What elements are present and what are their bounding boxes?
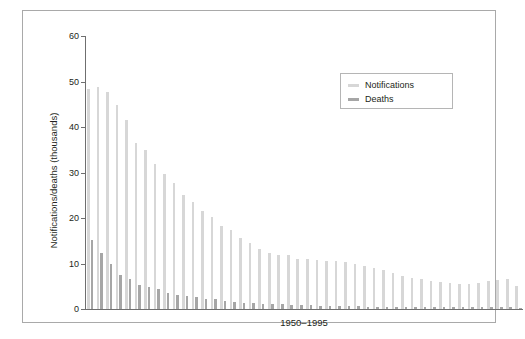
bar-notifications bbox=[163, 174, 166, 309]
bar-group bbox=[468, 36, 478, 309]
bar-deaths bbox=[148, 287, 151, 309]
bar-deaths bbox=[281, 304, 284, 309]
bar-group bbox=[239, 36, 249, 309]
y-axis-tick-label: 40 bbox=[69, 123, 79, 132]
bar-notifications bbox=[335, 261, 338, 309]
bar-notifications bbox=[287, 255, 290, 309]
bar-notifications bbox=[306, 259, 309, 309]
bar-notifications bbox=[468, 284, 471, 309]
bar-deaths bbox=[424, 307, 427, 309]
bar-group bbox=[211, 36, 221, 309]
bar-group bbox=[496, 36, 506, 309]
y-axis-tick-label: 10 bbox=[69, 260, 79, 269]
bar-notifications bbox=[296, 259, 299, 310]
bar-group bbox=[116, 36, 126, 309]
bar-notifications bbox=[125, 120, 128, 309]
bar-deaths bbox=[224, 301, 227, 309]
bar-group bbox=[515, 36, 525, 309]
bar-group bbox=[458, 36, 468, 309]
bar-notifications bbox=[430, 281, 433, 309]
bar-deaths bbox=[357, 306, 360, 309]
bar-deaths bbox=[376, 307, 379, 309]
bar-deaths bbox=[214, 299, 217, 309]
bar-group bbox=[487, 36, 497, 309]
bar-deaths bbox=[110, 264, 113, 310]
bar-notifications bbox=[154, 164, 157, 309]
y-axis-tick bbox=[81, 264, 85, 265]
bar-group bbox=[144, 36, 154, 309]
bar-group bbox=[287, 36, 297, 309]
legend-item: Deaths bbox=[348, 93, 394, 106]
bar-group bbox=[173, 36, 183, 309]
bar-deaths bbox=[462, 307, 465, 309]
bar-notifications bbox=[249, 243, 252, 309]
bar-notifications bbox=[363, 266, 366, 309]
bar-deaths bbox=[176, 295, 179, 309]
bar-group bbox=[258, 36, 268, 309]
bar-group bbox=[125, 36, 135, 309]
bar-notifications bbox=[392, 273, 395, 309]
bar-notifications bbox=[239, 238, 242, 309]
plot-area bbox=[85, 36, 523, 309]
bar-group bbox=[201, 36, 211, 309]
bar-notifications bbox=[439, 282, 442, 309]
bar-notifications bbox=[116, 105, 119, 309]
bar-deaths bbox=[129, 279, 132, 309]
bar-deaths bbox=[300, 305, 303, 309]
bar-deaths bbox=[329, 306, 332, 309]
bar-notifications bbox=[87, 89, 90, 309]
bar-deaths bbox=[262, 304, 265, 309]
bar-notifications bbox=[135, 143, 138, 309]
bar-group bbox=[192, 36, 202, 309]
y-axis-tick-label: 30 bbox=[69, 169, 79, 178]
y-axis-tick-labels: 0102030405060 bbox=[23, 36, 79, 309]
bar-notifications bbox=[97, 87, 100, 309]
bar-deaths bbox=[509, 307, 512, 309]
bar-deaths bbox=[186, 296, 189, 309]
y-axis-tick-label: 60 bbox=[69, 32, 79, 41]
bar-deaths bbox=[395, 307, 398, 309]
bar-notifications bbox=[477, 283, 480, 309]
bar-notifications bbox=[373, 268, 376, 309]
bar-group bbox=[477, 36, 487, 309]
legend-swatch-icon bbox=[348, 98, 359, 101]
chart-legend: NotificationsDeaths bbox=[340, 73, 453, 109]
bar-group bbox=[135, 36, 145, 309]
bar-deaths bbox=[310, 305, 313, 309]
bar-deaths bbox=[452, 307, 455, 309]
y-axis-tick bbox=[81, 173, 85, 174]
bar-notifications bbox=[144, 150, 147, 309]
bar-notifications bbox=[220, 226, 223, 309]
bar-deaths bbox=[519, 308, 522, 309]
y-axis-tick-label: 0 bbox=[74, 305, 79, 314]
bar-deaths bbox=[500, 307, 503, 309]
bar-notifications bbox=[211, 217, 214, 309]
bar-group bbox=[220, 36, 230, 309]
legend-swatch-icon bbox=[348, 84, 359, 87]
bar-group bbox=[506, 36, 516, 309]
bar-group bbox=[277, 36, 287, 309]
bar-series-container bbox=[85, 36, 523, 309]
bar-notifications bbox=[487, 281, 490, 309]
bar-deaths bbox=[252, 303, 255, 309]
bar-deaths bbox=[195, 297, 198, 309]
bar-group bbox=[296, 36, 306, 309]
bar-deaths bbox=[138, 285, 141, 309]
bar-group bbox=[87, 36, 97, 309]
legend-label: Deaths bbox=[365, 95, 394, 104]
figure-frame: Notifications/deaths (thousands) 0102030… bbox=[22, 10, 496, 323]
bar-notifications bbox=[316, 260, 319, 309]
bar-notifications bbox=[201, 211, 204, 309]
bar-deaths bbox=[338, 306, 341, 309]
legend-label: Notifications bbox=[365, 81, 414, 90]
bar-deaths bbox=[367, 307, 370, 309]
bar-notifications bbox=[344, 262, 347, 309]
bar-group bbox=[163, 36, 173, 309]
x-axis-line bbox=[85, 309, 523, 310]
bar-deaths bbox=[414, 307, 417, 309]
bar-deaths bbox=[290, 305, 293, 309]
legend-item: Notifications bbox=[348, 79, 414, 92]
bar-group bbox=[230, 36, 240, 309]
bar-notifications bbox=[173, 183, 176, 309]
bar-deaths bbox=[100, 253, 103, 309]
